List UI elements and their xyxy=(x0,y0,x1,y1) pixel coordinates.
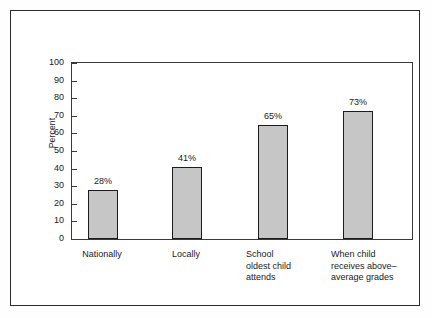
y-tick-mark xyxy=(72,98,77,99)
bar-value-label: 28% xyxy=(83,176,123,186)
y-tick-mark xyxy=(72,239,77,240)
bar-when-child-receives-above-average-grades[interactable] xyxy=(343,111,373,239)
y-tick-label: 90 xyxy=(34,74,64,87)
y-tick-label: 30 xyxy=(34,179,64,192)
category-label-locally: Locally xyxy=(141,249,231,261)
y-tick-mark xyxy=(72,63,77,64)
y-tick-label: 100 xyxy=(34,56,64,69)
category-label-school-oldest-child-attends: School oldest child attends xyxy=(246,249,330,284)
y-tick-label: 40 xyxy=(34,162,64,175)
category-label-when-child-receives-above-average-grades: When child receives above– average grade… xyxy=(331,249,423,284)
y-tick-mark xyxy=(72,116,77,117)
y-tick-mark xyxy=(72,151,77,152)
bar-value-label: 41% xyxy=(167,153,207,163)
figure: Percent 100 90 80 70 60 xyxy=(0,0,432,318)
y-tick-mark xyxy=(72,133,77,134)
y-tick-label: 0 xyxy=(34,232,64,245)
y-tick-label: 50 xyxy=(34,144,64,157)
y-tick-mark xyxy=(72,81,77,82)
y-tick-mark xyxy=(72,204,77,205)
y-tick-label: 60 xyxy=(34,126,64,139)
bar-value-label: 65% xyxy=(253,111,293,121)
y-tick-label: 80 xyxy=(34,91,64,104)
y-tick-mark xyxy=(72,169,77,170)
y-tick-mark xyxy=(72,186,77,187)
y-tick-mark xyxy=(72,221,77,222)
plot-area: 100 90 80 70 60 50 xyxy=(71,62,413,240)
bar-locally[interactable] xyxy=(172,167,202,239)
category-label-nationally: Nationally xyxy=(57,249,147,261)
plot-inner: 100 90 80 70 60 50 xyxy=(72,63,412,239)
y-tick-label: 10 xyxy=(34,214,64,227)
bar-school-oldest-child-attends[interactable] xyxy=(258,125,288,239)
y-tick-label: 70 xyxy=(34,109,64,122)
bar-nationally[interactable] xyxy=(88,190,118,239)
bar-value-label: 73% xyxy=(338,97,378,107)
y-tick-label: 20 xyxy=(34,197,64,210)
